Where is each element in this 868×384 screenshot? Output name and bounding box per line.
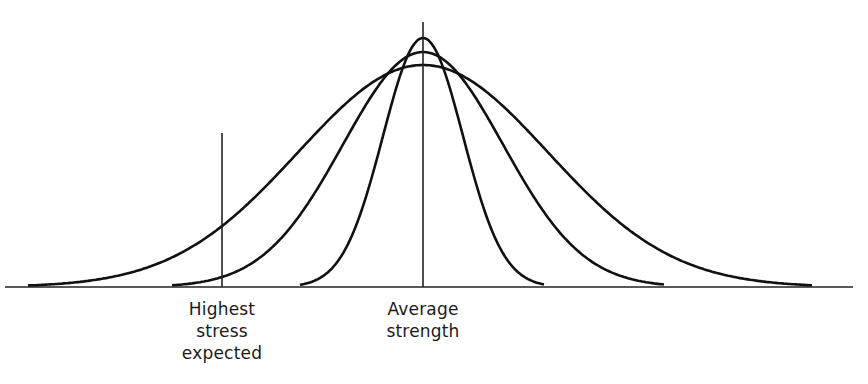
narrow-distribution-curve	[300, 38, 544, 285]
medium-distribution-curve	[172, 52, 664, 285]
wide-distribution-curve	[28, 65, 812, 286]
highest-stress-label: Highest stress expected	[167, 298, 277, 364]
average-strength-label: Average strength	[368, 298, 478, 342]
